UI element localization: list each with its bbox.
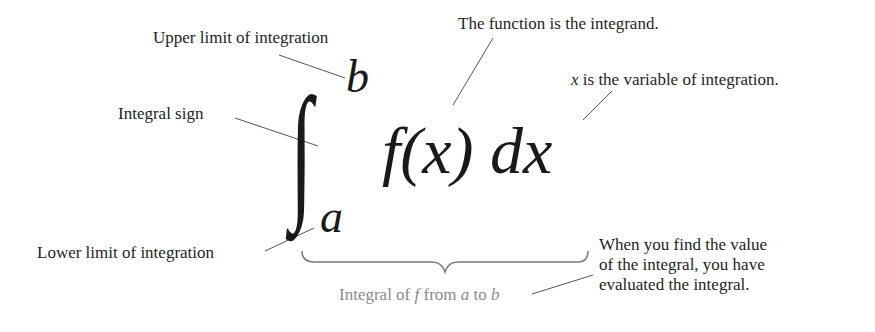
evaluated-note: When you find the value of the integral,…	[599, 235, 767, 295]
curly-brace	[302, 251, 588, 272]
upper-limit: b	[346, 52, 369, 102]
variable-leader	[583, 91, 612, 120]
lower-limit-label: Lower limit of integration	[37, 243, 214, 263]
variable-label: x is the variable of integration.	[571, 70, 779, 90]
integral-sign-label: Integral sign	[118, 104, 203, 124]
variable-symbol: x	[571, 70, 579, 89]
integrand-leader	[453, 38, 493, 105]
evaluated-leader	[532, 275, 593, 294]
differential: dx	[490, 114, 552, 187]
upper-limit-label: Upper limit of integration	[153, 28, 328, 48]
integral-sign: ∫	[290, 55, 313, 245]
integrand-function: f(x) dx	[382, 114, 552, 188]
brace-caption: Integral of f from a to b	[339, 285, 500, 305]
lower-limit: a	[320, 192, 343, 242]
integrand-label: The function is the integrand.	[458, 14, 659, 34]
